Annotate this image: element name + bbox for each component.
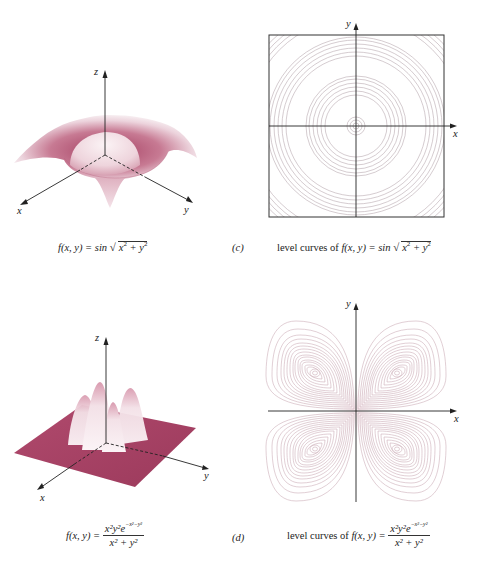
caption-c-surface: f(x, y) = sin √x2 + y2 (58, 242, 147, 253)
z-axis-label: z (94, 66, 98, 77)
x-axis-label: x (17, 205, 22, 216)
panel-label-c: (c) (232, 242, 244, 253)
caption-d-contour: level curves of f(x, y) = x²y²e−x²−y²x² … (287, 523, 430, 548)
contour-plot-gaussian-quadrants: y x (240, 280, 493, 520)
x-axis-label: x (453, 128, 458, 139)
panel-label-d: (d) (232, 532, 244, 543)
x-axis-label: x (40, 492, 45, 503)
surface-plot-sin-radial: z x y (0, 0, 250, 230)
surface-front-trough (95, 178, 125, 208)
x-axis-label: x (454, 413, 459, 424)
y-axis-label: y (184, 204, 189, 215)
caption-d-surface: f(x, y) = x²y²e−x²−y²x² + y² (66, 523, 144, 548)
contour-plot-sin-radial: y x (240, 0, 493, 230)
surface-plot-gaussian-quadrants: z x y (0, 280, 250, 520)
caption-c-contour: level curves of f(x, y) = sin √x2 + y2 (277, 242, 431, 253)
y-axis-label: y (346, 298, 351, 309)
y-axis-label: y (346, 18, 351, 29)
z-axis-label: z (95, 332, 99, 343)
y-axis-label: y (204, 470, 209, 481)
